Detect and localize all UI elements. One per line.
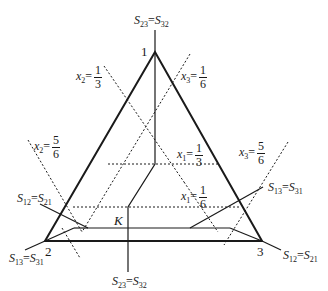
label-left-s12-s21: S12=S21 [17,192,52,207]
point-k-label: K [114,213,123,229]
label-right-s12-s21: S12=S21 [283,249,318,264]
vertex-2-label: 2 [45,244,52,260]
boundary-s13-s31-left [25,241,45,250]
label-right-s13-s31: S13=S31 [268,181,303,196]
boundary-s12-s21-right [262,241,281,250]
label-x1-1-3: x1=13 [177,142,203,169]
label-bottom-s23-s32: S23=S32 [112,275,147,290]
vertex-1-label: 1 [141,44,148,60]
vertex-3-label: 3 [257,244,264,260]
boundary-s23-s32 [128,30,155,272]
label-x3-5-6: x3=56 [239,140,265,167]
label-left-s13-s31: S13=S31 [9,252,44,267]
label-x3-1-6: x3=16 [181,64,207,91]
label-x2-5-6: x2=56 [34,134,60,161]
label-x2-1-3: x2=13 [76,64,102,91]
label-x1-1-6: x1=16 [181,184,207,211]
label-top-s23-s32: S23=S32 [134,14,169,29]
